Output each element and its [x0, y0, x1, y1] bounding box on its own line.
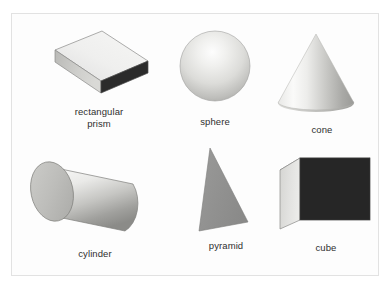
cube-icon [274, 154, 378, 238]
cone-icon [270, 28, 374, 124]
shape-rectangular-prism: rectangular prism [38, 26, 160, 144]
shape-label-cube: cube [274, 242, 378, 254]
shape-cylinder: cylinder [30, 148, 160, 270]
rectangular-prism-icon [38, 26, 160, 106]
shape-cube: cube [274, 154, 378, 266]
shape-label-rectangular-prism: rectangular prism [38, 106, 160, 130]
shape-label-pyramid: pyramid [172, 240, 280, 252]
cylinder-icon [30, 148, 160, 244]
pyramid-icon [172, 142, 280, 238]
shape-cone: cone [270, 28, 374, 148]
shape-label-cone: cone [270, 124, 374, 136]
shapes-figure-panel: rectangular prism sphere [11, 13, 379, 276]
shape-pyramid: pyramid [172, 142, 280, 264]
shape-label-cylinder: cylinder [30, 248, 160, 260]
shape-label-sphere: sphere [160, 116, 270, 128]
sphere-icon [160, 26, 270, 114]
shape-sphere: sphere [160, 26, 270, 144]
